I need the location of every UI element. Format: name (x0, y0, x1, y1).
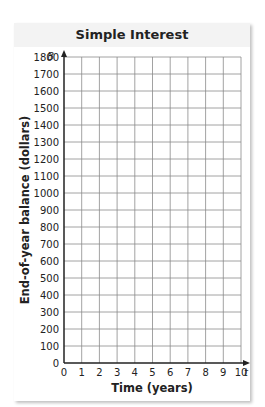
y-tick-label: 1000 (34, 188, 59, 199)
y-axis-variable: B (47, 51, 54, 62)
x-tick-label: 0 (61, 367, 67, 378)
y-tick-label: 1200 (34, 154, 59, 165)
y-tick-label: 600 (40, 256, 59, 267)
x-axis-variable: t (244, 367, 249, 378)
y-tick-label: 1400 (34, 120, 59, 131)
x-tick-label: 2 (96, 367, 102, 378)
x-tick-label: 4 (132, 367, 138, 378)
y-tick-label: 1500 (34, 103, 59, 114)
y-tick-label: 100 (40, 341, 59, 352)
y-axis-arrow-icon (61, 50, 67, 57)
y-axis-label: End-of-year balance (dollars) (18, 116, 32, 305)
x-tick-label: 3 (114, 367, 120, 378)
x-axis-arrow-icon (243, 360, 250, 366)
x-tick-label: 6 (167, 367, 173, 378)
axes (61, 50, 250, 366)
x-tick-label: 1 (79, 367, 85, 378)
y-tick-label: 1300 (34, 137, 59, 148)
y-tick-label: 800 (40, 222, 59, 233)
y-tick-label: 1100 (34, 171, 59, 182)
y-tick-label: 700 (40, 239, 59, 250)
x-tick-label: 5 (149, 367, 155, 378)
grid-lines (64, 57, 241, 363)
y-tick-label: 0 (53, 358, 59, 369)
y-tick-label: 900 (40, 205, 59, 216)
y-tick-label: 500 (40, 273, 59, 284)
chart-svg: 0100200300400500600700800900100011001200… (0, 0, 265, 407)
x-tick-labels: 012345678910 (61, 367, 248, 378)
x-tick-label: 7 (185, 367, 191, 378)
x-tick-label: 8 (202, 367, 208, 378)
y-tick-label: 1700 (34, 69, 59, 80)
y-tick-labels: 0100200300400500600700800900100011001200… (34, 52, 59, 369)
y-tick-label: 200 (40, 324, 59, 335)
x-tick-label: 9 (220, 367, 226, 378)
y-tick-label: 300 (40, 307, 59, 318)
y-tick-label: 1600 (34, 86, 59, 97)
y-tick-label: 400 (40, 290, 59, 301)
x-axis-label: Time (years) (111, 381, 193, 395)
